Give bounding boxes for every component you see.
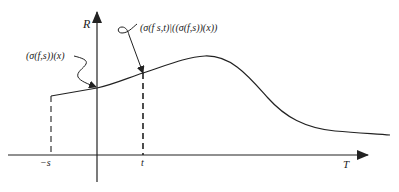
t-axis-label: T [343, 158, 350, 170]
trajectory-diagram: R T −s t (σ(f,s))(x) (σ(f s,t)|((σ(f,s))… [0, 0, 399, 192]
neg-s-tick-label: −s [40, 157, 51, 168]
trajectory-curve [51, 56, 390, 135]
r-axis-label: R [82, 17, 91, 31]
squiggle-arrow [74, 56, 96, 87]
origin-value-annotation: (σ(f,s))(x) [26, 50, 65, 62]
t-tick-label: t [141, 157, 144, 168]
t-value-annotation: (σ(f s,t)|((σ(f,s))(x)) [140, 22, 218, 34]
